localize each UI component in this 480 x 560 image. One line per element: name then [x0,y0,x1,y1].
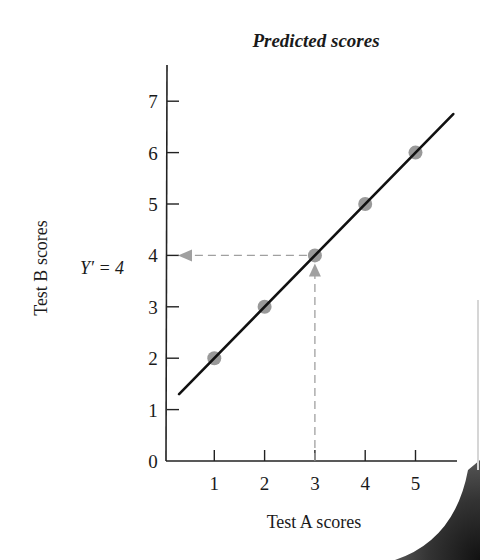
page-curl-shadow [395,460,480,560]
chart: Predicted scores 01234567 12345 Test B s… [0,0,480,560]
regression-line [179,114,453,394]
x-tick-label: 2 [260,473,270,494]
y-axis-ticks: 01234567 [148,91,179,472]
y-axis-label: Test B scores [31,220,51,316]
x-tick-label: 1 [210,473,220,494]
y-tick-label: 5 [148,194,158,215]
arrow-left-icon [178,249,192,261]
x-tick-label: 5 [411,473,421,494]
y-tick-label: 2 [148,348,158,369]
chart-title: Predicted scores [251,30,379,51]
y-tick-label: 1 [148,400,158,421]
axes [166,65,457,461]
y-tick-label: 4 [148,245,158,266]
y-tick-label: 3 [148,297,158,318]
x-tick-label: 3 [310,473,320,494]
arrow-up-icon [309,263,321,276]
y-tick-label: 6 [148,143,158,164]
y-tick-label: 7 [148,91,158,112]
prediction-annotation: Y′ = 4 [80,258,124,278]
y-axis [166,65,167,461]
x-tick-label: 4 [360,473,370,494]
y-tick-label: 0 [148,451,158,472]
x-axis-label: Test A scores [267,512,362,532]
